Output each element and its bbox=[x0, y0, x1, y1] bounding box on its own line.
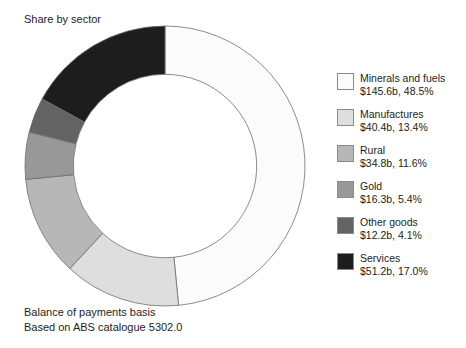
legend-item-label: Other goods bbox=[360, 216, 422, 229]
legend-item-label: Rural bbox=[360, 144, 427, 157]
donut-slice-group bbox=[25, 26, 305, 306]
legend-item-label: Minerals and fuels bbox=[360, 72, 445, 85]
footnote-line-1: Balance of payments basis bbox=[24, 305, 182, 320]
legend-item[interactable]: Gold$16.3b, 5.4% bbox=[337, 180, 466, 206]
legend-text: Other goods$12.2b, 4.1% bbox=[360, 216, 422, 242]
legend-item-value: $51.2b, 17.0% bbox=[360, 265, 428, 278]
legend-swatch bbox=[337, 145, 354, 162]
legend-item[interactable]: Services$51.2b, 17.0% bbox=[337, 252, 466, 278]
donut-slice[interactable] bbox=[42, 26, 165, 122]
donut-chart bbox=[22, 23, 308, 309]
legend-item-label: Gold bbox=[360, 180, 422, 193]
legend-item-value: $16.3b, 5.4% bbox=[360, 193, 422, 206]
chart-legend: Minerals and fuels$145.6b, 48.5%Manufact… bbox=[337, 72, 466, 288]
legend-swatch bbox=[337, 253, 354, 270]
legend-item-value: $40.4b, 13.4% bbox=[360, 121, 428, 134]
legend-swatch bbox=[337, 109, 354, 126]
legend-item[interactable]: Other goods$12.2b, 4.1% bbox=[337, 216, 466, 242]
chart-footnote: Balance of payments basis Based on ABS c… bbox=[24, 305, 182, 335]
legend-swatch bbox=[337, 217, 354, 234]
legend-item-label: Manufactures bbox=[360, 108, 428, 121]
chart-page: Share by sector Minerals and fuels$145.6… bbox=[0, 0, 466, 348]
donut-chart-svg bbox=[22, 23, 308, 309]
legend-swatch bbox=[337, 73, 354, 90]
legend-text: Manufactures$40.4b, 13.4% bbox=[360, 108, 428, 134]
legend-swatch bbox=[337, 181, 354, 198]
donut-slice[interactable] bbox=[165, 26, 305, 305]
legend-text: Rural$34.8b, 11.6% bbox=[360, 144, 427, 170]
legend-item[interactable]: Manufactures$40.4b, 13.4% bbox=[337, 108, 466, 134]
legend-text: Services$51.2b, 17.0% bbox=[360, 252, 428, 278]
legend-text: Gold$16.3b, 5.4% bbox=[360, 180, 422, 206]
legend-item-value: $12.2b, 4.1% bbox=[360, 229, 422, 242]
footnote-line-2: Based on ABS catalogue 5302.0 bbox=[24, 320, 182, 335]
legend-item[interactable]: Minerals and fuels$145.6b, 48.5% bbox=[337, 72, 466, 98]
legend-item-value: $34.8b, 11.6% bbox=[360, 157, 427, 170]
legend-item-value: $145.6b, 48.5% bbox=[360, 85, 445, 98]
legend-text: Minerals and fuels$145.6b, 48.5% bbox=[360, 72, 445, 98]
legend-item-label: Services bbox=[360, 252, 428, 265]
legend-item[interactable]: Rural$34.8b, 11.6% bbox=[337, 144, 466, 170]
